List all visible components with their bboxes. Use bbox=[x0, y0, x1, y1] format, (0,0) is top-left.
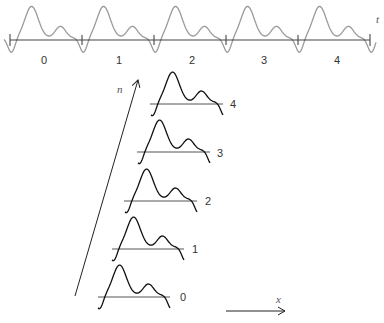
segment-curve-label-0: 0 bbox=[180, 291, 186, 303]
segment-curve-label-2: 2 bbox=[205, 195, 211, 207]
segment-curve-0: 0 bbox=[98, 265, 186, 309]
segment-curve-1: 1 bbox=[112, 217, 198, 261]
segment-label-2: 2 bbox=[189, 54, 195, 66]
segment-curve-3: 3 bbox=[137, 120, 223, 164]
segment-label-3: 3 bbox=[261, 54, 267, 66]
segment-label-0: 0 bbox=[41, 54, 47, 66]
segment-label-1: 1 bbox=[116, 54, 122, 66]
stacked-segments: 0 1 2 3 4 bbox=[98, 72, 236, 309]
n-axis-label: n bbox=[117, 83, 123, 95]
segment-curve-label-4: 4 bbox=[230, 98, 236, 110]
segment-curve-label-1: 1 bbox=[192, 243, 198, 255]
n-axis-arrow: n bbox=[75, 80, 138, 296]
x-axis-label: x bbox=[275, 293, 281, 305]
time-axis: t 0 1 2 3 4 bbox=[10, 13, 380, 66]
segment-curve-label-3: 3 bbox=[217, 147, 223, 159]
segment-label-4: 4 bbox=[334, 54, 340, 66]
x-axis-arrow: x bbox=[226, 293, 285, 311]
segment-curve-2: 2 bbox=[124, 169, 211, 213]
segment-curve-4: 4 bbox=[150, 72, 236, 116]
t-axis-label: t bbox=[376, 13, 380, 25]
diagram-canvas: t 0 1 2 3 4 n 0 1 2 3 bbox=[0, 0, 384, 323]
periodic-signal bbox=[4, 7, 376, 53]
